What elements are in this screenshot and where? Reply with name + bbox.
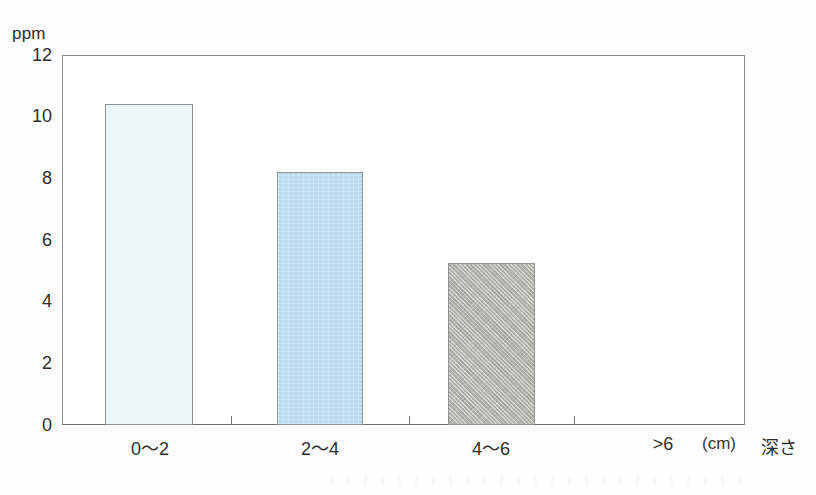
y-axis-tick-labels: 12 10 8 6 4 2 0 <box>0 0 52 495</box>
bar-0-2 <box>105 104 193 425</box>
x-tick-mark-3 <box>574 416 575 425</box>
y-tick-8: 8 <box>6 168 52 189</box>
bar-chart-figure: ppm 12 10 8 6 4 2 0 0〜2 2〜4 4〜6 >6 (cm) … <box>0 0 816 495</box>
y-tick-10: 10 <box>6 106 52 127</box>
y-tick-4: 4 <box>6 291 52 312</box>
bar-2-4 <box>277 172 363 425</box>
scan-artifact <box>330 476 750 486</box>
y-tick-12: 12 <box>6 45 52 66</box>
bars-layer <box>62 55 745 425</box>
y-tick-0: 0 <box>6 415 52 436</box>
x-axis-unit-label: (cm) <box>702 434 736 454</box>
y-tick-6: 6 <box>6 230 52 251</box>
x-tick-mark-1 <box>231 416 232 425</box>
x-tick-label-2-4: 2〜4 <box>301 434 339 460</box>
y-tick-2: 2 <box>6 353 52 374</box>
x-tick-label-0-2: 0〜2 <box>131 434 169 460</box>
x-axis-title: 深さ <box>761 433 797 459</box>
bar-4-6 <box>448 263 535 425</box>
x-tick-mark-2 <box>409 416 410 425</box>
x-tick-label-gt-6: >6 <box>653 434 674 455</box>
x-axis-tick-labels: 0〜2 2〜4 4〜6 >6 <box>62 434 745 464</box>
x-tick-label-4-6: 4〜6 <box>472 434 510 460</box>
